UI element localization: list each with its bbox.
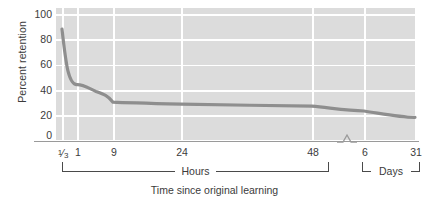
- forgetting-curve-figure: Percent retention 100 80 60 40 20 0: [0, 0, 429, 204]
- retention-curve: [56, 8, 417, 140]
- x-tick-label-one-third: 1⁄3: [58, 146, 69, 162]
- y-tick-label-100: 100: [18, 9, 52, 20]
- x-tick-label-24: 24: [176, 146, 188, 159]
- x-axis-line: [34, 141, 419, 142]
- hours-bracket-label: Hours: [177, 165, 213, 178]
- hours-bracket-rule-right: [216, 171, 328, 172]
- x-tick-label-48: 48: [307, 146, 319, 159]
- days-bracket: Days: [362, 162, 420, 172]
- y-tick-label-60: 60: [18, 59, 52, 70]
- x-axis-caption: Time since original learning: [0, 184, 429, 196]
- fraction-numerator: 1: [58, 148, 62, 157]
- days-bracket-rule-right: [411, 171, 419, 172]
- y-tick-label-40: 40: [18, 85, 52, 96]
- fraction-denominator: 3: [64, 151, 68, 160]
- hours-bracket-rule-left: [63, 171, 175, 172]
- plot-area: [56, 8, 417, 140]
- y-tick-label-0: 0: [18, 130, 52, 141]
- y-tick-label-20: 20: [18, 110, 52, 121]
- axis-break-icon: [337, 132, 357, 144]
- y-axis-tick-labels: 100 80 60 40 20 0: [18, 0, 52, 204]
- x-tick-label-1: 1: [75, 146, 81, 159]
- hours-bracket: Hours: [62, 162, 329, 172]
- days-bracket-rule-left: [363, 171, 371, 172]
- x-tick-label-9: 9: [111, 146, 117, 159]
- x-tick-label-6-days: 6: [362, 146, 368, 159]
- days-bracket-label: Days: [375, 165, 407, 178]
- x-tick-label-31-days: 31: [410, 146, 422, 159]
- y-tick-label-80: 80: [18, 34, 52, 45]
- x-axis-tick-labels: 1⁄3 1 9 24 48 6 31: [0, 146, 429, 162]
